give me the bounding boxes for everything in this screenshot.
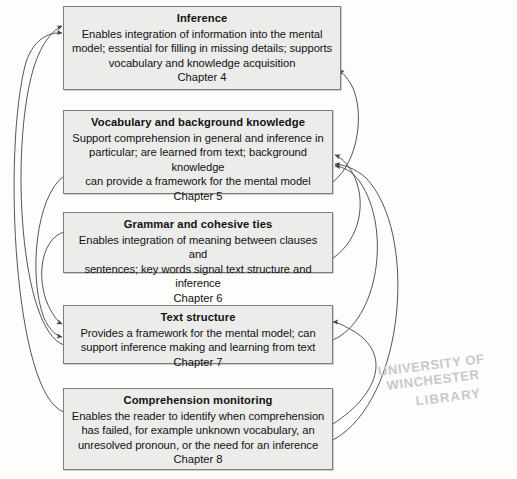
node-body-line: has failed, for example unknown vocabula… [70, 423, 326, 438]
node-chapter: Chapter 6 [70, 291, 326, 306]
node-body-line: support inference making and learning fr… [70, 340, 326, 355]
node-chapter: Chapter 7 [70, 355, 326, 370]
node-title: Comprehension monitoring [70, 393, 326, 408]
node-body-line: Support comprehension in general and inf… [70, 131, 326, 146]
node-body-line: Enables integration of meaning between c… [70, 233, 326, 262]
node-chapter: Chapter 4 [70, 70, 334, 85]
node-body-line: particular; are learned from text; backg… [70, 145, 326, 174]
node-title: Text structure [70, 310, 326, 325]
node-body-line: vocabulary and knowledge acquisition [70, 56, 334, 71]
node-chapter: Chapter 8 [70, 452, 326, 467]
node-title: Vocabulary and background knowledge [70, 115, 326, 130]
node-body-line: unresolved pronoun, or the need for an i… [70, 438, 326, 453]
node-body-line: can provide a framework for the mental m… [70, 174, 326, 189]
node-text-structure[interactable]: Text structure Provides a framework for … [63, 305, 333, 364]
node-title: Inference [70, 11, 334, 26]
node-body: Provides a framework for the mental mode… [70, 326, 326, 355]
node-body-line: sentences; key words signal text structu… [70, 262, 326, 291]
node-grammar-cohesive-ties[interactable]: Grammar and cohesive ties Enables integr… [63, 212, 333, 273]
node-vocabulary-background-knowledge[interactable]: Vocabulary and background knowledge Supp… [63, 110, 333, 194]
node-body-line: Enables the reader to identify when comp… [70, 409, 326, 424]
node-title: Grammar and cohesive ties [70, 217, 326, 232]
node-body-line: Enables integration of information into … [70, 27, 334, 42]
node-body: Enables the reader to identify when comp… [70, 409, 326, 453]
node-body: Support comprehension in general and inf… [70, 131, 326, 189]
node-body: Enables integration of information into … [70, 27, 334, 71]
node-body-line: Provides a framework for the mental mode… [70, 326, 326, 341]
node-body: Enables integration of meaning between c… [70, 233, 326, 291]
node-body-line: model; essential for filling in missing … [70, 41, 334, 56]
node-comprehension-monitoring[interactable]: Comprehension monitoring Enables the rea… [63, 388, 333, 470]
node-inference[interactable]: Inference Enables integration of informa… [63, 6, 341, 90]
node-chapter: Chapter 5 [70, 189, 326, 204]
